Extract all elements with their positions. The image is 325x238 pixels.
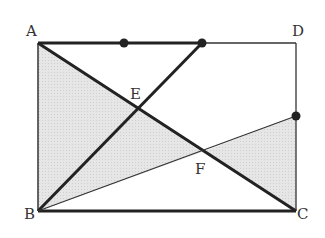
label-d: D xyxy=(292,22,304,40)
geometry-diagram: A D E F B C xyxy=(0,0,325,238)
point-on-ad-1 xyxy=(120,39,129,48)
label-f: F xyxy=(195,160,205,178)
point-on-ad-2 xyxy=(198,39,207,48)
point-on-dc xyxy=(292,112,301,121)
shaded-triangle-fgc xyxy=(202,116,296,211)
label-e: E xyxy=(130,85,141,103)
label-a: A xyxy=(25,22,37,40)
label-b: B xyxy=(24,205,35,223)
label-c: C xyxy=(297,205,308,223)
